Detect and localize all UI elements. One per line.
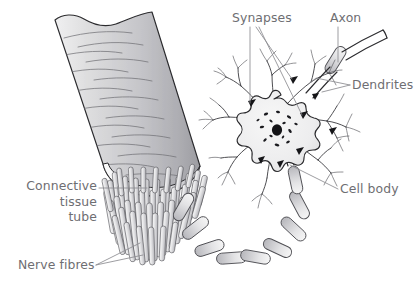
label-cell-body: Cell body xyxy=(340,181,399,196)
nerve-fibres xyxy=(102,164,208,265)
label-dendrites: Dendrites xyxy=(352,77,413,92)
bouton xyxy=(329,127,337,135)
nerve-anatomy-diagram: Connective tissue tube Nerve fibres Syna… xyxy=(0,0,419,286)
label-connective-tissue-tube-line-1: tissue xyxy=(60,194,97,209)
diagram-canvas: Connective tissue tube Nerve fibres Syna… xyxy=(0,0,419,286)
label-connective-tissue-tube-line-2: tube xyxy=(68,209,97,224)
label-connective-tissue-tube: Connective tissue tube xyxy=(26,178,97,224)
bouton xyxy=(312,93,319,100)
label-nerve-fibres: Nerve fibres xyxy=(18,257,95,272)
nucleus xyxy=(272,124,282,136)
label-connective-tissue-tube-line-0: Connective xyxy=(26,178,97,193)
label-axon: Axon xyxy=(330,10,361,25)
label-synapses: Synapses xyxy=(232,10,292,25)
